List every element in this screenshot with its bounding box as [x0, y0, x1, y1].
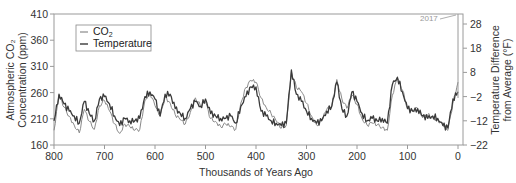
left-tick-label: 310	[30, 60, 48, 72]
right-tick-label: 8	[470, 66, 476, 78]
annotation-2017: 2017	[420, 14, 438, 23]
x-tick-label: 300	[298, 150, 316, 162]
co2-line	[54, 72, 458, 134]
left-tick-label: 260	[30, 87, 48, 99]
right-tick-label: −22	[470, 139, 488, 151]
x-tick-label: 700	[96, 150, 114, 162]
left-y-axis: 160210260310360410	[30, 8, 54, 151]
x-tick-label: 200	[348, 150, 366, 162]
x-tick-label: 400	[247, 150, 265, 162]
left-tick-label: 210	[30, 113, 48, 125]
right-tick-label: −12	[470, 115, 488, 127]
annotation-arrow	[440, 15, 456, 19]
x-tick-label: 600	[146, 150, 164, 162]
x-axis-title: Thousands of Years Ago	[199, 166, 313, 178]
x-axis: 8007006005004003002001000	[45, 145, 461, 162]
left-tick-label: 410	[30, 8, 48, 20]
left-tick-label: 360	[30, 34, 48, 46]
y-axis-title-line1: Atmospheric CO₂	[4, 39, 16, 120]
x-tick-label: 100	[399, 150, 417, 162]
right-tick-label: 28	[470, 18, 482, 30]
legend: CO2 Temperature	[76, 25, 152, 51]
right-tick-label: −2	[470, 91, 482, 103]
y2-axis-title-line1: Temperature Difference	[489, 25, 501, 135]
right-tick-label: 18	[470, 42, 482, 54]
y2-axis-title-line2: from Average (°F)	[501, 39, 513, 122]
series-layer	[54, 70, 458, 134]
temperature-line	[54, 70, 458, 130]
right-y-axis: −22−12−281828	[463, 18, 488, 151]
y-axis-title-line2: Concentration (ppm)	[16, 32, 28, 128]
x-tick-label: 800	[45, 150, 63, 162]
x-tick-label: 0	[455, 150, 461, 162]
chart-svg: 160210260310360410 −22−12−281828 8007006…	[0, 0, 516, 183]
x-tick-label: 500	[197, 150, 215, 162]
legend-temperature-label: Temperature	[93, 37, 152, 49]
